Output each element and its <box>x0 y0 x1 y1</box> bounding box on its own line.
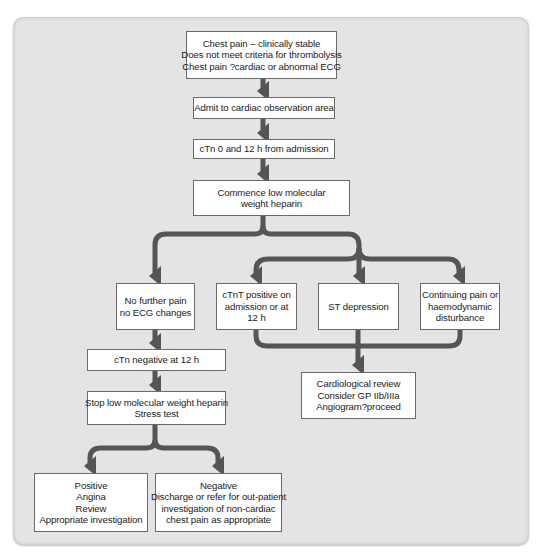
node-st-depression: ST depression <box>318 283 399 330</box>
node-text: no ECG changes <box>120 307 192 318</box>
node-text: Does not meet criteria for thrombolysis <box>181 49 341 60</box>
node-text: admission or at <box>225 301 289 312</box>
branch-secondary <box>256 248 359 276</box>
branch-stress <box>90 424 155 466</box>
node-ctnt-positive: cTnT positive on admission or at 12 h <box>216 283 297 330</box>
node-commence-lmwh: Commence low molecular weight heparin <box>193 180 350 216</box>
node-text: haemodynamic <box>428 301 492 312</box>
node-text: No further pain <box>125 295 187 306</box>
node-text: Chest pain – clinically stable <box>203 38 321 49</box>
node-ctn-negative: cTn negative at 12 h <box>87 349 226 371</box>
node-text: investigation of non-cardiac <box>162 503 276 514</box>
node-stop-lmwh: Stop low molecular weight heparin Stress… <box>87 391 226 425</box>
node-text: Continuing pain or <box>422 289 498 300</box>
branch-commence-right <box>263 226 359 276</box>
branch-stress-right <box>155 440 218 466</box>
node-text: chest pain as appropriate <box>166 514 271 525</box>
node-text: Stress test <box>134 408 178 419</box>
node-text: Angiogram?proceed <box>316 401 401 412</box>
node-text: Discharge or refer for out-patient <box>151 491 286 502</box>
node-text: disturbance <box>436 312 485 323</box>
node-ctn-0-12: cTn 0 and 12 h from admission <box>193 139 335 159</box>
node-cardiological-review: Cardiological review Consider GP IIb/III… <box>301 372 416 419</box>
node-text: weight heparin <box>241 198 302 209</box>
node-text: 12 h <box>247 312 265 323</box>
node-text: Stop low molecular weight heparin <box>85 397 228 408</box>
branch-secondary-right <box>359 248 459 276</box>
node-text: cTn negative at 12 h <box>114 354 199 365</box>
node-admit: Admit to cardiac observation area <box>193 97 335 119</box>
node-text: ST depression <box>328 301 388 312</box>
node-positive: Positive Angina Review Appropriate inves… <box>34 473 148 532</box>
node-text: Cardiological review <box>317 378 401 389</box>
node-text: cTn 0 and 12 h from admission <box>200 143 329 154</box>
node-text: Positive <box>75 480 108 491</box>
node-negative: Negative Discharge or refer for out-pati… <box>155 473 282 532</box>
node-text: Angina <box>76 491 105 502</box>
node-text: Chest pain ?cardiac or abnormal ECG <box>182 61 341 72</box>
node-text: Review <box>76 503 107 514</box>
node-text: Appropriate investigation <box>39 514 142 525</box>
node-text: Consider GP IIb/IIIa <box>317 390 399 401</box>
node-text: Negative <box>200 480 237 491</box>
branch-commence <box>155 215 263 276</box>
node-continuing-pain: Continuing pain or haemodynamic disturba… <box>420 283 500 330</box>
node-text: Admit to cardiac observation area <box>194 102 334 113</box>
node-text: cTnT positive on <box>222 289 291 300</box>
connectors <box>0 0 543 554</box>
node-no-further-pain: No further pain no ECG changes <box>116 283 195 330</box>
node-text: Commence low molecular <box>217 187 325 198</box>
node-start: Chest pain – clinically stable Does not … <box>186 31 337 79</box>
